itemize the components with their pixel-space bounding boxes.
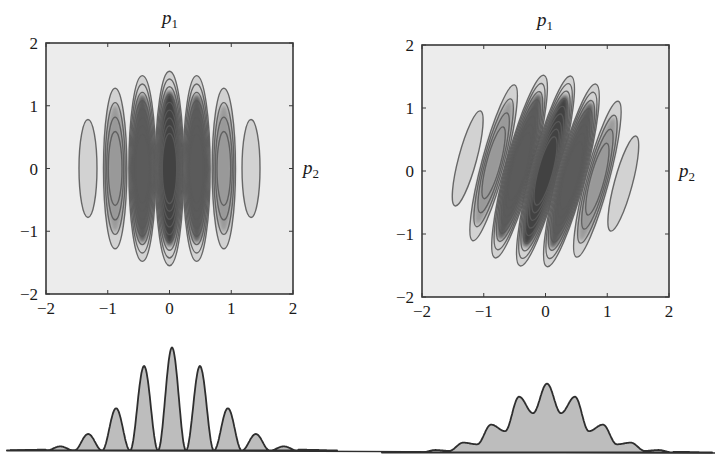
x-tick-label: 1	[227, 299, 236, 318]
right-axis-label-left: p2	[301, 157, 319, 181]
y-tick-label: 1	[406, 99, 415, 118]
contour-lobe	[79, 120, 97, 218]
y-tick-label: 0	[30, 160, 39, 179]
contour-lobe	[242, 120, 260, 218]
contour-lobe	[104, 88, 127, 249]
top-axis-label-right: p1	[535, 9, 553, 33]
y-tick-label: 2	[30, 34, 39, 53]
y-tick-label: −1	[396, 225, 414, 244]
y-tick-label: 0	[406, 162, 415, 181]
y-tick-label: 2	[406, 36, 415, 55]
x-tick-label: −2	[413, 302, 431, 321]
x-tick-label: −1	[99, 299, 117, 318]
y-tick-label: −1	[20, 222, 38, 241]
x-tick-label: −1	[475, 302, 493, 321]
x-tick-label: 1	[603, 302, 612, 321]
x-tick-label: 2	[665, 302, 674, 321]
marginal-curve-right	[382, 384, 712, 453]
contour-lobe	[155, 71, 183, 266]
y-tick-label: −2	[396, 288, 414, 307]
contour-lobe	[183, 76, 210, 262]
marginal-distributions	[7, 348, 715, 454]
x-tick-label: 0	[165, 299, 174, 318]
top-axis-label-left: p1	[160, 7, 178, 31]
contour-lobe	[212, 88, 235, 249]
figure: −2−1012210−1−2 p1 p2 −2−1012210−1−2 p1 p…	[0, 0, 718, 472]
contour-plot-right: −2−1012210−1−2 p1 p2	[396, 9, 695, 321]
contour-plot-left: −2−1012210−1−2 p1 p2	[20, 7, 319, 318]
contour-lobe	[129, 76, 156, 262]
x-tick-label: −2	[37, 299, 55, 318]
x-tick-label: 0	[541, 302, 550, 321]
y-tick-label: −2	[20, 285, 38, 304]
x-tick-label: 2	[289, 299, 298, 318]
right-axis-label-right: p2	[677, 160, 695, 184]
marginal-curve-left	[7, 348, 337, 451]
y-tick-label: 1	[30, 97, 39, 116]
